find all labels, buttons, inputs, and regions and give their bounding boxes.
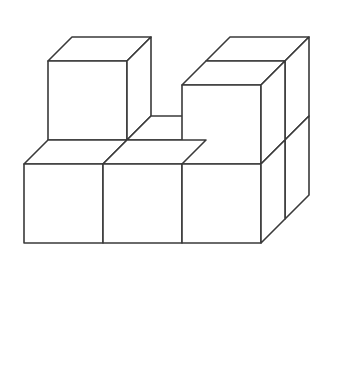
- cube-face-front: [182, 164, 261, 243]
- cube-face-front: [48, 61, 127, 140]
- cube-face-front: [103, 164, 182, 243]
- cube-back-left-upper: [48, 37, 151, 140]
- isometric-figure: [0, 0, 357, 374]
- cube-face-front: [24, 164, 103, 243]
- cube-stack-drawing: [0, 0, 357, 374]
